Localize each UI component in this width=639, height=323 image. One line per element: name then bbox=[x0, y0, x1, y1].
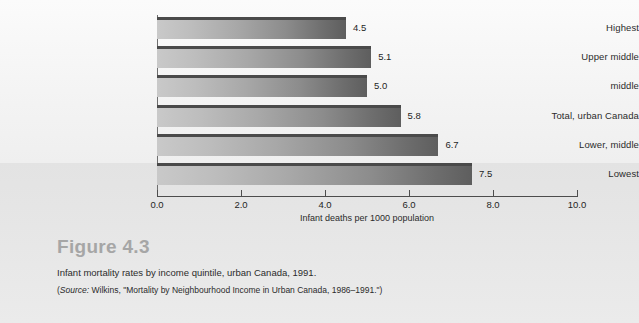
bar-value-label: 7.5 bbox=[479, 169, 492, 179]
x-tick-mark bbox=[241, 190, 242, 197]
bar-value-label: 6.7 bbox=[445, 140, 458, 150]
x-tick-mark bbox=[577, 190, 578, 197]
figure-caption-text: Infant mortality rates by income quintil… bbox=[57, 267, 597, 279]
bar bbox=[157, 46, 371, 68]
figure-source-text: (Source: Wilkins, "Mortality by Neighbou… bbox=[57, 284, 597, 296]
bar bbox=[157, 17, 346, 39]
bar-row: Highest4.5 bbox=[0, 17, 639, 39]
figure-container: Highest4.5Upper middle5.1middle5.0Total,… bbox=[0, 0, 639, 323]
x-tick-label: 6.0 bbox=[402, 199, 415, 210]
bar-row: Lowest7.5 bbox=[0, 163, 639, 185]
x-tick-label: 2.0 bbox=[234, 199, 247, 210]
bar-row: Total, urban Canada5.8 bbox=[0, 105, 639, 127]
bar-value-label: 4.5 bbox=[353, 23, 366, 33]
bar bbox=[157, 75, 367, 97]
bar-category-label: middle bbox=[491, 81, 639, 91]
source-label: Source: bbox=[60, 285, 89, 295]
x-tick-mark bbox=[409, 190, 410, 197]
bar-row: Lower, middle6.7 bbox=[0, 134, 639, 156]
bar bbox=[157, 163, 472, 185]
x-axis-title: Infant deaths per 1000 population bbox=[157, 213, 577, 223]
x-tick-label: 4.0 bbox=[318, 199, 331, 210]
bar-row: middle5.0 bbox=[0, 75, 639, 97]
bar-value-label: 5.1 bbox=[378, 52, 391, 62]
bar bbox=[157, 105, 401, 127]
x-tick-mark bbox=[157, 190, 158, 197]
bar-category-label: Lowest bbox=[491, 169, 639, 179]
figure-caption-block: Figure 4.3 Infant mortality rates by inc… bbox=[57, 236, 597, 296]
bar-value-label: 5.0 bbox=[374, 81, 387, 91]
x-axis-line bbox=[157, 196, 577, 197]
bar-category-label: Highest bbox=[491, 23, 639, 33]
bar-category-label: Upper middle bbox=[491, 52, 639, 62]
x-tick-label: 10.0 bbox=[568, 199, 587, 210]
x-tick-label: 0.0 bbox=[150, 199, 163, 210]
bar-category-label: Total, urban Canada bbox=[491, 111, 639, 121]
x-tick-mark bbox=[325, 190, 326, 197]
x-tick-mark bbox=[493, 190, 494, 197]
figure-number: Figure 4.3 bbox=[57, 236, 597, 258]
bar-chart-plot: Highest4.5Upper middle5.1middle5.0Total,… bbox=[0, 0, 639, 200]
source-citation: Wilkins, "Mortality by Neighbourhood Inc… bbox=[89, 285, 382, 295]
bar-category-label: Lower, middle bbox=[491, 140, 639, 150]
bar-row: Upper middle5.1 bbox=[0, 46, 639, 68]
bar-value-label: 5.8 bbox=[408, 111, 421, 121]
bar bbox=[157, 134, 438, 156]
x-tick-label: 8.0 bbox=[486, 199, 499, 210]
